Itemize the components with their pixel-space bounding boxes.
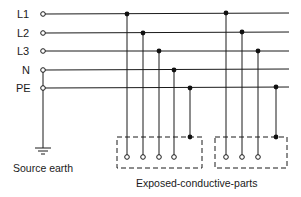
load-group-left [117, 12, 202, 168]
conductor-lines [45, 13, 289, 88]
earth-ground-icon [35, 148, 51, 154]
load-group-right [215, 11, 287, 168]
tn-s-diagram: L1 L2 L3 N PE Source earth [0, 0, 301, 197]
label-l2: L2 [17, 27, 29, 39]
conductor-n [45, 69, 289, 70]
label-l1: L1 [17, 8, 29, 20]
label-n: N [22, 64, 30, 76]
conductor-l1 [45, 13, 289, 14]
conductor-pe [45, 87, 289, 88]
label-pe: PE [16, 82, 31, 94]
source-earth-label: Source earth [13, 162, 73, 174]
label-l3: L3 [17, 45, 29, 57]
exposed-conductive-parts-label: Exposed-conductive-parts [136, 177, 257, 189]
conductor-l2 [45, 32, 289, 33]
